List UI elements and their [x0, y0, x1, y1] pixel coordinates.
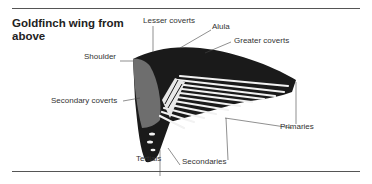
label-lesser-coverts: Lesser coverts [143, 16, 195, 25]
label-shoulder: Shoulder [84, 52, 116, 61]
label-secondaries: Secondaries [182, 157, 226, 166]
label-greater-coverts: Greater coverts [234, 36, 289, 45]
label-primaries: Primaries [280, 122, 314, 131]
label-alula: Alula [212, 22, 230, 31]
label-secondary-coverts: Secondary coverts [51, 96, 117, 105]
label-tertials: Tertials [136, 154, 161, 163]
